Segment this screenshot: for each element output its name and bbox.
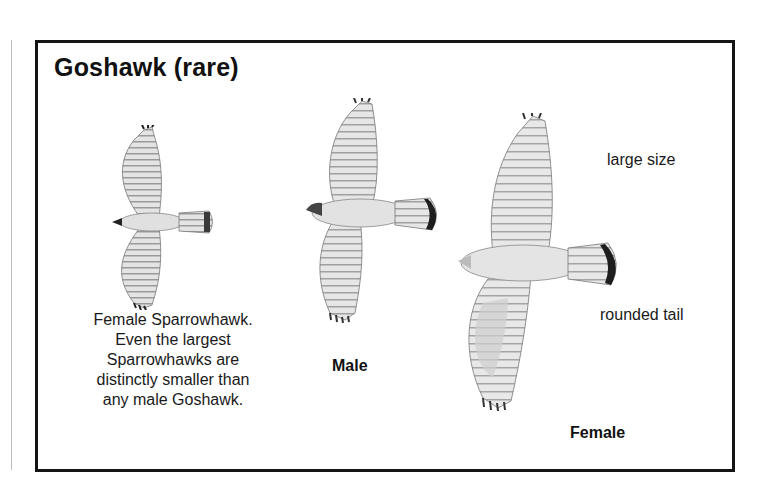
male-label: Male: [332, 357, 368, 375]
female-goshawk-illustration: [453, 113, 623, 413]
caption-line: distinctly smaller than: [78, 370, 268, 390]
caption-line: Female Sparrowhawk.: [78, 310, 268, 330]
goshawk-panel: Goshawk (rare) Female Sparrowhawk. Even …: [35, 40, 735, 472]
page-margin-line: [11, 40, 12, 470]
female-label: Female: [570, 424, 625, 442]
panel-title: Goshawk (rare): [54, 53, 239, 82]
male-goshawk-illustration: [300, 98, 445, 323]
female-sparrowhawk-illustration: [104, 125, 224, 310]
sparrowhawk-caption: Female Sparrowhawk. Even the largest Spa…: [78, 310, 268, 410]
caption-line: Sparrowhawks are: [78, 350, 268, 370]
rounded-tail-annotation: rounded tail: [600, 306, 684, 324]
large-size-annotation: large size: [607, 151, 675, 169]
caption-line: Even the largest: [78, 330, 268, 350]
caption-line: any male Goshawk.: [78, 390, 268, 410]
